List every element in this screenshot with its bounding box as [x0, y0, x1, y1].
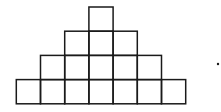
grid-cell: [41, 80, 65, 104]
grid-cell: [65, 80, 89, 104]
grid-cell: [137, 80, 161, 104]
grid-cell: [113, 55, 137, 79]
grid-cell: [113, 80, 137, 104]
pyramid-grid: [16, 7, 185, 104]
grid-cell: [162, 80, 186, 104]
grid-cell: [89, 55, 113, 79]
grid-cell: [113, 31, 137, 55]
pyramid-diagram: [0, 0, 221, 112]
grid-cell: [65, 31, 89, 55]
grid-cell: [89, 7, 113, 31]
period-dot: [217, 63, 219, 65]
grid-cell: [65, 55, 89, 79]
grid-cell: [41, 55, 65, 79]
grid-cell: [89, 80, 113, 104]
grid-cell: [16, 80, 40, 104]
grid-cell: [137, 55, 161, 79]
grid-cell: [89, 31, 113, 55]
